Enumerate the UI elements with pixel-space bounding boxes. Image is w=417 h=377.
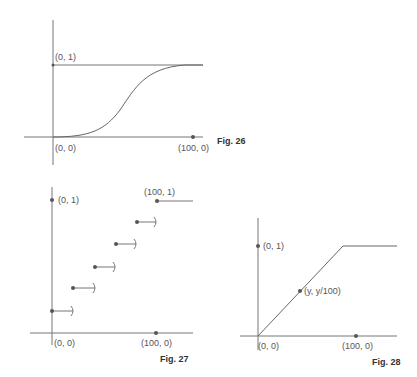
fig27-label-top: (0, 1) [58, 195, 79, 205]
fig28-label-top: (0, 1) [263, 241, 284, 251]
fig26-label-origin: (0, 0) [55, 143, 76, 153]
fig26-label-end: (100, 0) [178, 143, 209, 153]
fig27-caption: Fig. 27 [160, 354, 189, 364]
fig26-curve [53, 65, 203, 137]
fig26-plot [24, 20, 203, 165]
fig28-caption: Fig. 28 [372, 357, 401, 367]
fig28-label-origin: (0, 0) [258, 341, 279, 351]
fig28-label-mid: (y, y/100) [304, 286, 341, 296]
fig26-label-top: (0, 1) [55, 52, 76, 62]
fig26-caption: Fig. 26 [217, 136, 246, 146]
fig27-label-last: (100, 1) [144, 187, 175, 197]
fig28-label-end: (100, 0) [342, 341, 373, 351]
figures-canvas: (0, 1) (0, 0) (100, 0) Fig. 26 (0, 1) (1… [0, 0, 417, 377]
fig28-plot [240, 218, 397, 350]
fig27-label-end: (100, 0) [141, 338, 172, 348]
fig27-plot [30, 187, 193, 345]
fig27-label-origin: (0, 0) [54, 338, 75, 348]
